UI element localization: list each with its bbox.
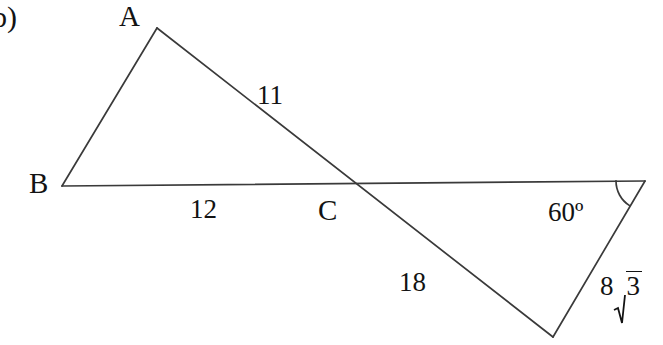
item-marker: b) bbox=[0, 2, 17, 32]
angle-label-60: 60º bbox=[548, 199, 583, 226]
vertex-label-a: A bbox=[119, 2, 140, 31]
side-length-de: 83 bbox=[600, 271, 642, 300]
radical-sign-glyph bbox=[613, 294, 626, 324]
side-length-ac: 11 bbox=[257, 82, 283, 109]
side-length-de-coefficient: 8 bbox=[600, 271, 614, 301]
segment-b-a bbox=[62, 28, 157, 186]
radical-radicand: 3 bbox=[626, 271, 643, 300]
geometry-figure: b) A B C 11 12 18 60º 83 bbox=[0, 0, 663, 345]
vertex-label-b: B bbox=[29, 169, 48, 198]
vertex-label-c: C bbox=[318, 196, 337, 225]
figure-canvas bbox=[0, 0, 663, 345]
side-length-cd: 18 bbox=[399, 269, 426, 296]
angle-arc-60 bbox=[616, 181, 630, 206]
side-length-bc: 12 bbox=[190, 196, 217, 223]
